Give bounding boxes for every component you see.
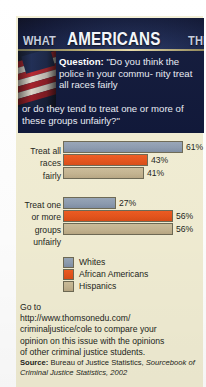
source-label: Source: [20,358,48,367]
bar-value-whites-unfairly: 27% [119,198,136,208]
page-left-margin [0,0,16,387]
group-label-2-line-1: Treat one [18,199,61,211]
bar-chart: Treat all races fairly 61% 43% 41% [18,139,204,251]
goto-instructions: Go to http://www.thomsonedu.com/ crimina… [20,302,202,358]
bar-value-hispanics-unfairly: 56% [176,224,193,234]
legend-swatch-hispanics [63,281,74,292]
bar-whites-fairly [63,141,183,153]
question-line-1: "Do you think [106,56,163,67]
legend-label-whites: Whites [79,257,105,267]
title-word-americans: AMERICANS [67,28,160,50]
group-label-1-line-3: fairly [18,170,61,182]
page-top-margin [0,0,206,16]
group-label-2-line-2: or more [18,211,61,223]
legend-item-african-americans: African Americans [63,268,148,280]
bar-hispanics-fairly [63,167,144,179]
group-label-2-line-3: groups [18,224,61,236]
title-word-what: WHAT [23,33,56,48]
question-text-wide: or do they tend to treat one or more of … [22,103,202,126]
legend-item-hispanics: Hispanics [63,280,148,292]
infographic-page: WHAT AMERICANS THINK [0,0,206,387]
question-label: Question: [59,56,104,67]
bar-african-americans-unfairly [63,210,173,222]
legend-swatch-african-americans [63,269,74,280]
question-text-column: Question: "Do you think the police in yo… [59,56,200,91]
legend-swatch-whites [63,257,74,268]
goto-line-4: opinion on this issue with the opinions [20,336,202,347]
goto-url[interactable]: http://www.thomsonedu.com/ [20,313,202,324]
header-banner: WHAT AMERICANS THINK [18,18,204,51]
chart-legend: Whites African Americans Hispanics [63,256,148,292]
group-label-1-line-1: Treat all [18,145,61,157]
group-label-1: Treat all races fairly [18,145,61,182]
bar-african-americans-fairly [63,154,148,166]
question-block: Question: "Do you think the police in yo… [18,51,204,133]
legend-label-hispanics: Hispanics [79,281,116,291]
bar-value-african-americans-unfairly: 56% [176,211,193,221]
bar-value-whites-fairly: 61% [186,142,203,152]
goto-line-3: criminaljustice/cole to compare your [20,324,202,335]
legend-label-african-americans: African Americans [79,269,148,279]
source-publisher: Bureau of Justice Statistics, [48,358,146,367]
bar-whites-unfairly [63,197,116,209]
group-label-2: Treat one or more groups unfairly [18,199,61,249]
goto-line-5: of other criminal justice students. [20,347,202,358]
group-label-1-line-2: races [18,157,61,169]
group-label-2-line-4: unfairly [18,236,61,248]
title-word-think: THINK [188,33,204,48]
question-line-4: or do they tend to treat one or [22,103,148,114]
goto-line-1: Go to [20,302,202,313]
bar-value-african-americans-fairly: 43% [151,155,168,165]
page-title: WHAT AMERICANS THINK [23,28,204,50]
bar-value-hispanics-fairly: 41% [147,168,164,178]
source-citation: Source: Bureau of Justice Statistics, So… [20,358,202,378]
american-flag-image [18,51,56,107]
legend-item-whites: Whites [63,256,148,268]
bar-hispanics-unfairly [63,223,173,235]
